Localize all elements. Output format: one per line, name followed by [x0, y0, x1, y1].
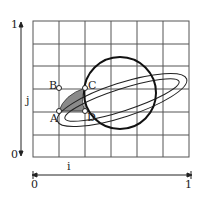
vertical-axis [19, 22, 23, 156]
point-c [83, 86, 88, 91]
shaded-region [59, 88, 85, 111]
label-b: B [49, 79, 57, 92]
point-b [57, 86, 62, 91]
vertical-axis-min: 0 [11, 148, 18, 161]
horizontal-axis-max: 1 [185, 178, 192, 191]
label-d: D [87, 111, 96, 124]
vertical-axis-max: 1 [11, 18, 18, 31]
horizontal-axis-label: i [67, 160, 71, 173]
label-a: A [49, 112, 59, 125]
label-c: C [88, 79, 96, 92]
vertical-axis-label: j [24, 94, 29, 107]
horizontal-axis [32, 171, 192, 179]
texture-mapping-diagram: A B C D 1 0 j i 0 1 [0, 0, 206, 200]
horizontal-axis-min: 0 [31, 178, 38, 191]
